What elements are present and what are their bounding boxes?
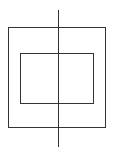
diagram-canvas [0, 0, 116, 157]
inner-rectangle [21, 54, 94, 104]
outer-rectangle [9, 28, 106, 128]
diagram-svg [0, 0, 116, 157]
